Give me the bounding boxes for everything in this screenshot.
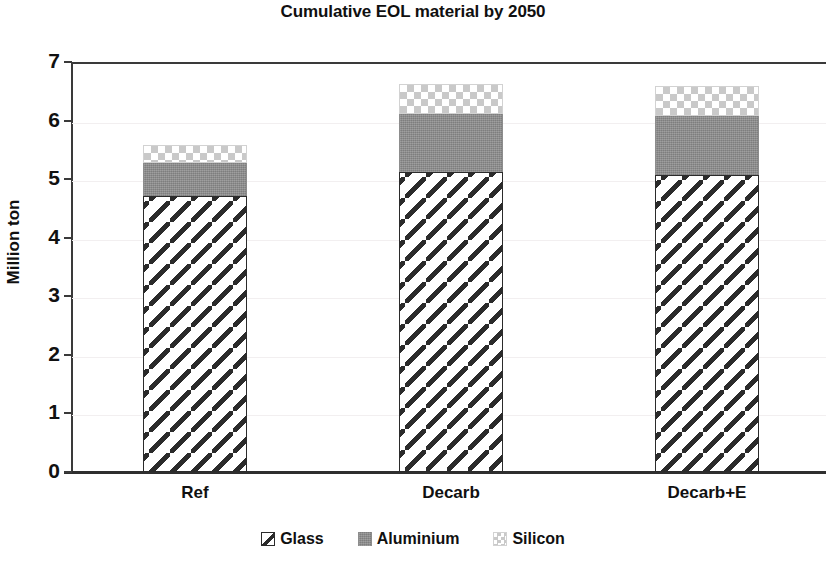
y-axis-tick-label: 0 — [4, 460, 60, 481]
y-axis-tick-mark — [64, 295, 72, 297]
y-axis-tick-mark — [64, 237, 72, 239]
bar-segment-glass[interactable] — [143, 196, 247, 472]
bar-segment-silicon[interactable] — [399, 84, 503, 113]
y-axis-tick-label: 3 — [4, 284, 60, 305]
bar-segment-glass[interactable] — [399, 172, 503, 472]
x-axis-category-label: Ref — [93, 483, 297, 503]
legend-label: Silicon — [512, 530, 564, 548]
plot-area — [72, 62, 826, 472]
bar-segment-aluminium[interactable] — [399, 114, 503, 173]
y-axis-tick-mark — [64, 120, 72, 122]
y-axis-tick-label: 4 — [4, 226, 60, 247]
bar-group[interactable] — [399, 62, 503, 472]
bar-group[interactable] — [655, 62, 759, 472]
y-axis-tick-mark — [64, 471, 72, 473]
chart-legend: GlassAluminiumSilicon — [0, 530, 826, 548]
aluminium-solid-swatch — [358, 532, 372, 546]
bar-segment-silicon[interactable] — [143, 145, 247, 163]
bar-segment-silicon[interactable] — [655, 86, 759, 116]
glass-hatch-swatch — [261, 532, 275, 546]
legend-item-aluminium[interactable]: Aluminium — [358, 530, 460, 548]
bar-segment-aluminium[interactable] — [655, 116, 759, 175]
bar-segment-aluminium[interactable] — [143, 163, 247, 196]
silicon-checker-swatch — [493, 532, 507, 546]
bar-chart: Cumulative EOL material by 2050 Million … — [0, 0, 826, 567]
bar-group[interactable] — [143, 62, 247, 472]
legend-label: Glass — [280, 530, 324, 548]
y-axis-tick-mark — [64, 354, 72, 356]
y-axis-tick-label: 6 — [4, 109, 60, 130]
chart-title: Cumulative EOL material by 2050 — [0, 2, 826, 22]
y-axis-tick-label: 2 — [4, 343, 60, 364]
y-axis-tick-label: 5 — [4, 167, 60, 188]
legend-item-glass[interactable]: Glass — [261, 530, 324, 548]
x-axis-category-label: Decarb — [349, 483, 553, 503]
bar-segment-glass[interactable] — [655, 175, 759, 472]
x-axis-category-label: Decarb+E — [605, 483, 809, 503]
legend-label: Aluminium — [377, 530, 460, 548]
y-axis-tick-mark — [64, 412, 72, 414]
y-axis-tick-labels: 01234567 — [0, 0, 60, 567]
y-axis-tick-mark — [64, 178, 72, 180]
legend-item-silicon[interactable]: Silicon — [493, 530, 564, 548]
y-axis-tick-label: 7 — [4, 50, 60, 71]
y-axis-tick-label: 1 — [4, 401, 60, 422]
y-axis-tick-mark — [64, 61, 72, 63]
